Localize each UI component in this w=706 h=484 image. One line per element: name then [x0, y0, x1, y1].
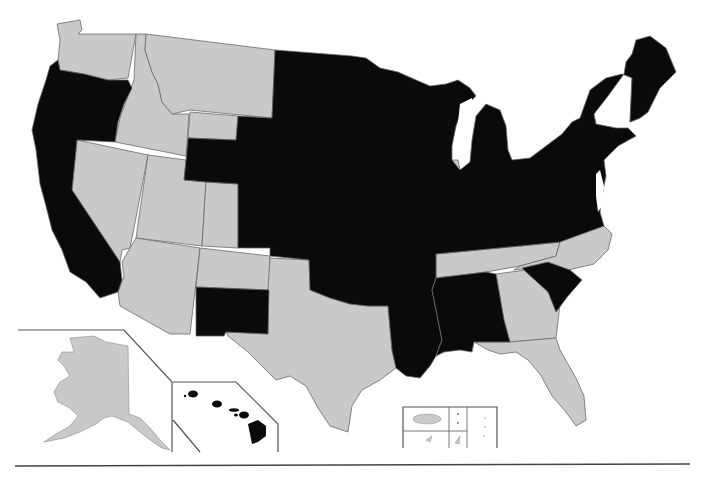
- us-choropleth-map: [0, 0, 706, 484]
- territory-mariana-3: [483, 435, 485, 437]
- island-molokai: [229, 408, 239, 412]
- state-florida: [474, 338, 586, 426]
- bottom-rule: [15, 464, 690, 466]
- state-wyoming-part: [188, 112, 238, 140]
- territory-puerto-rico: [413, 414, 441, 424]
- territory-guam: [426, 436, 432, 442]
- territory-virgin-islands-2: [457, 422, 459, 424]
- territories-inset: [403, 407, 497, 448]
- island-lanai: [234, 413, 238, 416]
- hawaii-inset: [173, 382, 278, 452]
- island-kauai: [188, 391, 198, 398]
- island-oahu: [212, 401, 222, 408]
- state-colorado-part: [202, 182, 238, 248]
- state-alaska: [44, 336, 170, 450]
- state-washington: [57, 20, 136, 80]
- island-niihau: [184, 395, 186, 397]
- island-maui: [239, 412, 249, 419]
- island-big-island: [248, 420, 266, 444]
- alaska-inset: [18, 330, 172, 452]
- territory-american-samoa: [455, 436, 460, 444]
- territory-virgin-islands: [457, 413, 459, 415]
- territory-mariana-2: [484, 426, 486, 428]
- territory-mariana-1: [484, 417, 486, 419]
- state-montana: [145, 34, 275, 118]
- state-arizona: [118, 238, 200, 334]
- state-new-mexico-part: [196, 248, 270, 290]
- state-new-mexico-part-highlighted: [196, 287, 269, 336]
